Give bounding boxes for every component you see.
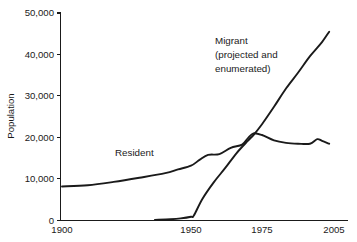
migrant-series-label-line3: enumerated) [215,63,271,74]
axis-lines [61,12,349,221]
migrant-series-label-line1: Migrant [215,35,248,46]
resident-series-line [62,133,329,186]
y-axis-title: Population [5,93,16,138]
y-tick-label-50000: 50,000 [25,7,54,18]
y-tick-marks [57,13,61,221]
x-tick-label-1950: 1950 [180,224,201,235]
y-tick-label-30000: 30,000 [25,90,54,101]
x-tick-label-1900: 1900 [51,224,72,235]
y-tick-label-20000: 20,000 [25,132,54,143]
resident-series-label: Resident [115,147,154,158]
y-tick-label-10000: 10,000 [25,173,54,184]
migrant-series-label-line2: (projected and [215,49,278,60]
x-tick-label-2005: 2005 [323,224,344,235]
x-tick-label-1975: 1975 [251,224,272,235]
population-line-chart: 50,000 40,000 30,000 20,000 10,000 0 Pop… [0,0,357,242]
y-tick-label-40000: 40,000 [25,49,54,60]
chart-canvas: 50,000 40,000 30,000 20,000 10,000 0 Pop… [0,0,357,242]
